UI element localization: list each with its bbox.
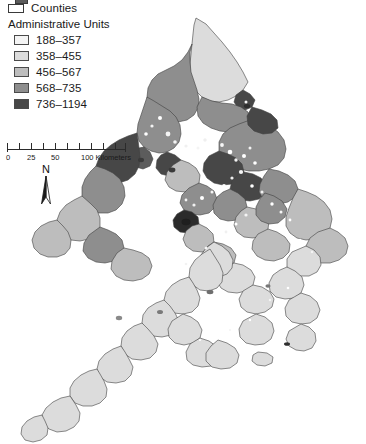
north-arrow: N (33, 163, 59, 207)
scale-label-50: 50 (51, 153, 59, 162)
scale-label-25: 25 (27, 153, 35, 162)
legend-label-1: 188–357 (36, 34, 81, 46)
scale-bar-line (7, 149, 125, 150)
counties-swatch (8, 4, 24, 13)
legend-class-4[interactable]: 568–735 (0, 80, 150, 96)
legend-swatch-2 (14, 51, 29, 61)
legend-swatch-3 (14, 67, 29, 77)
scale-tick (55, 143, 56, 150)
scale-label-100: 100 Kilometers (81, 153, 131, 162)
legend-label-4: 568–735 (36, 82, 81, 94)
scale-tick (67, 143, 68, 150)
legend-label-2: 358–455 (36, 50, 81, 62)
scale-tick (31, 143, 32, 150)
legend-class-3[interactable]: 456–567 (0, 64, 150, 80)
counties-label: Counties (31, 2, 77, 14)
scale-bar: 0 25 50 100 Kilometers (7, 143, 137, 164)
scale-bar-graphic (7, 143, 127, 152)
scale-bar-labels: 0 25 50 100 Kilometers (7, 153, 137, 164)
legend-swatch-1 (14, 35, 29, 45)
map-legend: Counties Administrative Units 188–357 35… (0, 0, 150, 112)
legend-swatch-4 (14, 83, 29, 93)
scale-tick-end-left (7, 143, 8, 152)
scale-label-0: 0 (6, 153, 10, 162)
legend-label-5: 736–1194 (36, 98, 87, 110)
north-arrow-label: N (33, 163, 59, 175)
clipped-legend-swatch (15, 0, 28, 4)
legend-class-2[interactable]: 358–455 (0, 48, 150, 64)
scale-tick-end-right (125, 143, 126, 152)
legend-swatch-5 (14, 99, 29, 109)
scale-tick (79, 143, 80, 150)
legend-label-3: 456–567 (36, 66, 81, 78)
legend-heading: Administrative Units (0, 16, 150, 32)
scale-tick (115, 143, 116, 150)
legend-class-1[interactable]: 188–357 (0, 32, 150, 48)
scale-tick (103, 143, 104, 150)
legend-class-5[interactable]: 736–1194 (0, 96, 150, 112)
north-arrow-icon (33, 175, 59, 205)
scale-tick (19, 143, 20, 150)
scale-tick (91, 143, 92, 150)
scale-tick (43, 143, 44, 150)
